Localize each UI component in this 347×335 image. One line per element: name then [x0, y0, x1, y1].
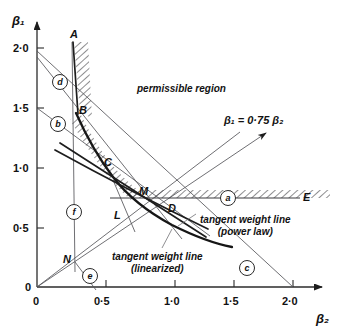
- annotation-tangent-linearized-line1: tangent weight line: [112, 252, 203, 262]
- x-tick-label-1-5: 1·5: [223, 296, 238, 307]
- x-tick-label-0: 0: [33, 296, 39, 307]
- y-tick-label-1-0: 1·0: [13, 163, 28, 174]
- annotation-tangent-power-law-line1: tangent weight line: [200, 215, 291, 225]
- annotation-tangent-power-law: tangent weight line (power law): [200, 215, 291, 237]
- x-tick-label-1-0: 1·0: [164, 296, 179, 307]
- marker-label-a: a: [221, 194, 235, 203]
- marker-label-f: f: [67, 208, 81, 217]
- hatching-group: [70, 42, 330, 200]
- y-tick-label-0: 0: [25, 282, 31, 293]
- x-tick-label-0-5: 0·5: [94, 296, 109, 307]
- point-label-M: M: [139, 186, 148, 197]
- marker-label-d: d: [53, 78, 67, 87]
- y-tick-label-1-5: 1·5: [13, 103, 28, 114]
- y-tick-label-2-0: 2·0: [13, 43, 28, 54]
- point-label-B: B: [79, 105, 87, 116]
- y-tick-label-0-5: 0·5: [13, 223, 28, 234]
- point-label-C: C: [104, 157, 112, 168]
- annotation-beta-relation: β₁ = 0·75 β₂: [224, 115, 283, 126]
- plot-canvas: [0, 0, 347, 335]
- annotation-tangent-power-law-line2: (power law): [200, 227, 291, 237]
- point-label-L: L: [114, 210, 121, 221]
- y-axis-title: β₁: [12, 14, 25, 27]
- point-label-D: D: [168, 203, 176, 214]
- leader-linearized: [162, 229, 172, 248]
- figure-container: β₁ β₂ 2·0 1·5 1·0 0·5 0 0 0·5 1·0 1·5 2·…: [0, 0, 347, 335]
- point-label-E: E: [303, 192, 310, 203]
- x-axis-title: β₂: [316, 312, 329, 325]
- marker-label-c: c: [240, 264, 254, 273]
- point-label-A: A: [70, 29, 78, 40]
- annotation-permissible-region: permissible region: [137, 84, 226, 94]
- marker-label-b: b: [51, 120, 65, 129]
- marker-label-e: e: [83, 272, 97, 281]
- point-label-N: N: [63, 254, 71, 265]
- annotation-tangent-linearized: tangent weight line (linearized): [112, 252, 203, 274]
- annotation-tangent-linearized-line2: (linearized): [112, 264, 203, 274]
- x-tick-label-2-0: 2·0: [282, 296, 297, 307]
